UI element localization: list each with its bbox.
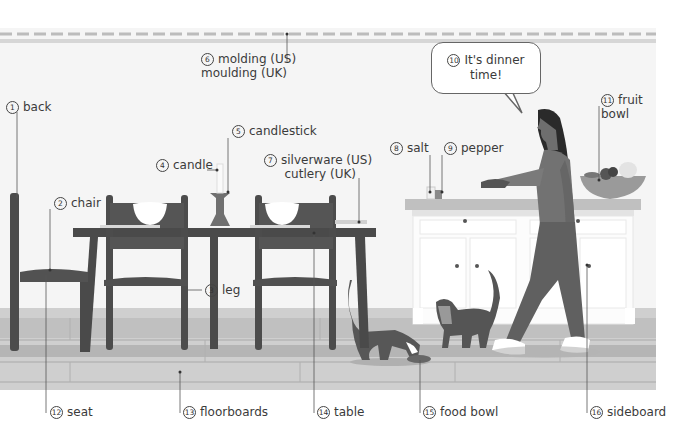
label-silverware: 7silverware (US)cutlery (UK): [264, 153, 356, 181]
label-candlestick: 5candlestick: [232, 124, 317, 138]
label-floorboards: 13floorboards: [183, 405, 268, 419]
label-chair: 2chair: [54, 196, 101, 210]
label-molding: 6molding (US)moulding (UK): [201, 52, 283, 80]
label-seat: 12seat: [50, 405, 93, 419]
label-leg: 3leg: [205, 283, 240, 297]
label-number: 10: [447, 54, 460, 67]
label-salt: 8salt: [390, 141, 429, 155]
candle: [217, 164, 223, 193]
label-back: 1back: [6, 100, 52, 114]
silverware: [335, 220, 367, 224]
label-candle: 4candle: [156, 158, 213, 172]
label-fruit-bowl: 11fruitbowl: [601, 93, 643, 121]
label-pepper: 9pepper: [444, 141, 504, 155]
label-sideboard: 16sideboard: [590, 405, 666, 419]
label-table: 14table: [317, 405, 364, 419]
speech-bubble: 10It's dinner time!: [431, 42, 541, 94]
label-food-bowl: 15food bowl: [423, 405, 498, 419]
dining-room-scene: [0, 0, 681, 445]
